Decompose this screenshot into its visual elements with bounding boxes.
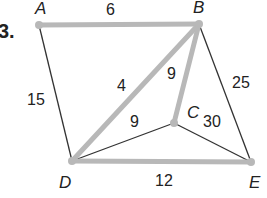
- weight-A-B: 6: [106, 1, 115, 18]
- vertex-C-dot: [170, 119, 178, 127]
- edge-D-E: [72, 161, 251, 162]
- vertex-label-E: E: [249, 173, 261, 192]
- problem-number: 3.: [0, 20, 15, 42]
- vertex-label-A: A: [34, 0, 46, 18]
- edge-A-B: [39, 24, 199, 25]
- edge-B-E: [199, 24, 251, 162]
- weight-B-E: 25: [232, 74, 250, 91]
- weight-C-E: 30: [203, 113, 221, 130]
- vertex-label-C: C: [187, 103, 200, 122]
- weight-C-D: 9: [130, 113, 139, 130]
- weight-A-D: 15: [27, 91, 45, 108]
- vertex-B-dot: [195, 20, 203, 28]
- graph-diagram: 3. A B C D E 6 15 4 9 25 9 30 12: [0, 0, 267, 198]
- vertex-label-D: D: [59, 173, 71, 192]
- weight-D-E: 12: [155, 172, 173, 189]
- weight-B-C: 9: [167, 65, 176, 82]
- graph-canvas: 3. A B C D E 6 15 4 9 25 9 30 12: [0, 0, 267, 198]
- vertex-label-B: B: [193, 0, 204, 17]
- vertex-A-dot: [35, 21, 43, 29]
- vertex-D-dot: [68, 157, 76, 165]
- vertex-E-dot: [247, 158, 255, 166]
- weight-B-D: 4: [117, 77, 126, 94]
